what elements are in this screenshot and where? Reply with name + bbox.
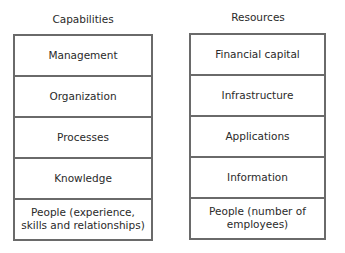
- resource-infrastructure: Infrastructure: [191, 76, 324, 117]
- resource-applications: Applications: [191, 117, 324, 158]
- resources-stack: Financial capital Infrastructure Applica…: [189, 33, 326, 240]
- capability-processes: Processes: [15, 118, 151, 159]
- capability-people: People (experience, skills and relations…: [15, 200, 151, 238]
- capability-organization: Organization: [15, 77, 151, 118]
- capability-management: Management: [15, 36, 151, 77]
- resource-people: People (number of employees): [191, 199, 324, 237]
- capabilities-stack: Management Organization Processes Knowle…: [13, 34, 153, 241]
- resource-financial-capital: Financial capital: [191, 35, 324, 76]
- capabilities-title: Capabilities: [13, 13, 153, 25]
- resources-title: Resources: [188, 11, 328, 23]
- capability-knowledge: Knowledge: [15, 159, 151, 200]
- resource-information: Information: [191, 158, 324, 199]
